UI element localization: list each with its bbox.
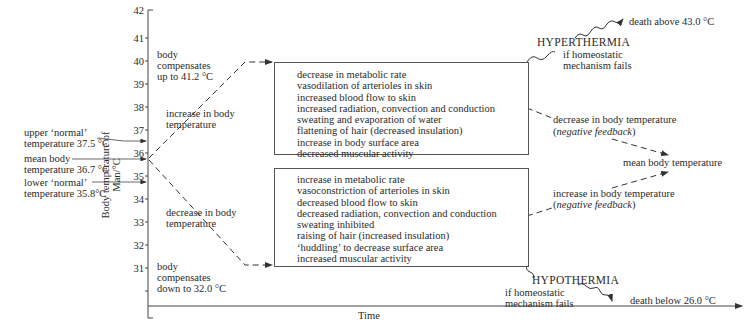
feedback-increase-1: increase in body temperature — [553, 188, 675, 199]
hypo-fail-1: if homeostatic — [505, 287, 565, 298]
y-axis-label: Body temperature of Man/°C — [100, 110, 122, 240]
upper-compensate-1: body — [157, 49, 178, 60]
feedback-decrease-1: decrease in body temperature — [553, 114, 676, 125]
feedback-decrease-2: (negative feedback) — [553, 126, 636, 137]
upper-compensate-3: up to 41.2 °C — [157, 71, 213, 82]
heat-response-item: increase in body surface area — [297, 137, 495, 148]
tick-35: 35 — [128, 171, 144, 182]
x-axis-label: Time — [358, 310, 380, 321]
increase-branch-2: temperature — [166, 119, 216, 130]
heat-response-item: increased blood flow to skin — [297, 92, 495, 103]
cold-response-item: increase in metabolic rate — [297, 174, 497, 185]
heat-response-item: vasodilation of arterioles in skin — [297, 80, 495, 91]
cold-response-item: decreased radiation, convection and cond… — [297, 208, 497, 219]
lower-normal-label-1: lower ‘normal’ — [24, 177, 87, 188]
lower-compensate-2: compensates — [157, 272, 211, 283]
increase-branch-1: increase in body — [166, 108, 235, 119]
tick-42: 42 — [128, 5, 144, 16]
cold-response-box: increase in metabolic rate vasoconstrict… — [274, 168, 529, 267]
cold-response-item: increased muscular activity — [297, 253, 497, 264]
tick-32: 32 — [128, 240, 144, 251]
tick-37: 37 — [128, 125, 144, 136]
lower-compensate-3: down to 32.0 °C — [157, 283, 226, 294]
hyperthermia-label: HYPERTHERMIA — [537, 37, 630, 48]
hyper-fail-2: mechanism fails — [563, 60, 632, 71]
tick-41: 41 — [128, 33, 144, 44]
upper-compensate-2: compensates — [157, 60, 211, 71]
heat-response-item: flattening of hair (decreased insulation… — [297, 125, 495, 136]
cold-response-item: ‘huddling’ to decrease surface area — [297, 242, 497, 253]
tick-40: 40 — [128, 56, 144, 67]
feedback-increase-2: (negative feedback) — [553, 199, 636, 210]
death-above-label: death above 43.0 °C — [629, 16, 714, 27]
tick-36: 36 — [128, 148, 144, 159]
mean-body-label-2: temperature 36.7 °C — [24, 164, 109, 175]
cold-response-item: sweating inhibited — [297, 219, 497, 230]
death-below-label: death below 26.0 °C — [630, 295, 716, 306]
mean-body-temperature-label: mean body temperature — [623, 157, 722, 168]
cold-response-item: decreased blood flow to skin — [297, 197, 497, 208]
lower-normal-label-2: temperature 35.8°C — [24, 188, 106, 199]
y-axis — [145, 10, 153, 318]
decrease-branch-2: temperature — [166, 218, 216, 229]
hyper-fail-1: if homeostatic — [563, 49, 623, 60]
lower-compensate-1: body — [157, 261, 178, 272]
heat-response-item: increased radiation, convection and cond… — [297, 103, 495, 114]
tick-33: 33 — [128, 217, 144, 228]
cold-response-item: raising of hair (increased insulation) — [297, 230, 497, 241]
tick-31: 31 — [128, 263, 144, 274]
upper-normal-label-2: temperature 37.5 °C — [24, 138, 109, 149]
upper-normal-label-1: upper ‘normal’ — [24, 127, 87, 138]
hypothermia-label: HYPOTHERMIA — [532, 275, 619, 286]
cold-response-item: vasoconstriction of arterioles in skin — [297, 185, 497, 196]
decrease-branch-1: decrease in body — [166, 207, 237, 218]
heat-response-box: decrease in metabolic rate vasodilation … — [274, 62, 529, 155]
tick-34: 34 — [128, 194, 144, 205]
heat-response-item: decrease in metabolic rate — [297, 69, 495, 80]
mean-body-label-1: mean body — [24, 153, 70, 164]
heat-response-item: decreased muscular activity — [297, 148, 495, 159]
hypo-fail-2: mechanism fails — [505, 298, 574, 309]
heat-response-item: sweating and evaporation of water — [297, 114, 495, 125]
tick-38: 38 — [128, 102, 144, 113]
tick-39: 39 — [128, 79, 144, 90]
